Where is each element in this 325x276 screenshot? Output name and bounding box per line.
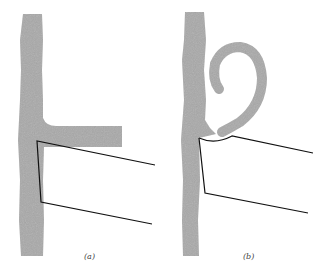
figure: (a) (b)	[0, 0, 325, 276]
figure-drawing	[0, 0, 325, 276]
panel-a	[18, 14, 122, 256]
panel-a-wedge	[37, 141, 155, 224]
panel-b-label: (b)	[243, 252, 254, 261]
panel-a-stalk	[18, 14, 122, 256]
panel-b-stalk	[181, 12, 216, 256]
panel-b-wedge	[199, 136, 313, 213]
panel-b-curl	[214, 47, 262, 132]
panel-b	[181, 12, 262, 256]
panel-a-label: (a)	[84, 252, 95, 261]
